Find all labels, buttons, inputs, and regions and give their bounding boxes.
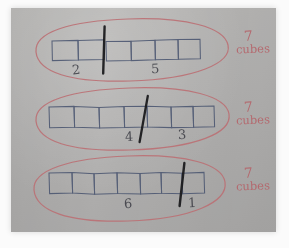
row-1-circle-ellipse [36, 19, 228, 81]
row-3-divider-stroke [180, 163, 185, 206]
row-2-cubes [49, 106, 215, 128]
row-3-annotation-word: cubes [236, 179, 270, 192]
row-1-left-label: 2 [71, 62, 81, 78]
row-1-annotation-word: cubes [236, 42, 270, 55]
screenshot-canvas: 2 5 4 3 6 1 7 cubes 7 cubes 7 cubes [0, 0, 289, 248]
row-3-left-label: 6 [123, 196, 132, 212]
row-3-group [34, 156, 225, 221]
row-2-left-label: 4 [125, 129, 134, 144]
row-3-annotation: 7 cubes [236, 165, 270, 192]
row-2-annotation-word: cubes [236, 113, 270, 126]
row-1-group [36, 19, 228, 81]
row-2-annotation: 7 cubes [236, 99, 270, 126]
row-3-right-label: 1 [188, 195, 197, 210]
row-1-cubes [52, 39, 200, 61]
row-1-right-label: 5 [151, 61, 160, 76]
row-1-divider-stroke [103, 27, 104, 74]
row-2-divider-stroke [140, 96, 148, 142]
row-2-right-label: 3 [177, 127, 186, 143]
row-1-annotation: 7 cubes [236, 28, 270, 55]
row-3-circle-ellipse [34, 156, 225, 221]
